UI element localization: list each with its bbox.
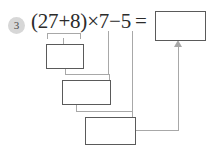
bracket-right-tick	[80, 33, 81, 39]
step1-to-step2-line-right	[65, 74, 110, 75]
equation-expression: (27+8)×7−5 =	[31, 11, 147, 32]
bracket-left-tick	[47, 33, 48, 39]
step-2-box[interactable]	[62, 80, 111, 105]
problem-number-badge: 3	[8, 17, 25, 34]
times-7-drop-line	[108, 31, 109, 75]
step-3-box[interactable]	[85, 117, 136, 145]
minus-5-drop-line	[132, 31, 133, 112]
answer-box[interactable]	[155, 11, 206, 41]
arrow-up-icon	[174, 40, 182, 47]
step3-to-answer-line-right	[136, 130, 179, 131]
step-1-box[interactable]	[46, 44, 84, 69]
step3-to-answer-line-up	[178, 46, 179, 131]
step2-to-step3-line-right	[76, 111, 133, 112]
math-worksheet-problem: 3 (27+8)×7−5 =	[0, 0, 215, 154]
bracket-top-line	[47, 33, 81, 34]
